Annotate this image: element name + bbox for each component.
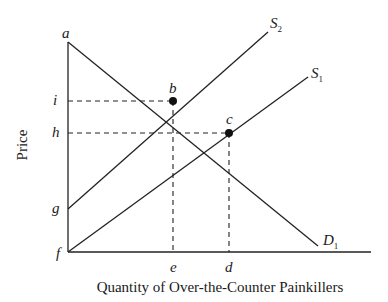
label-s1: S1: [311, 65, 323, 84]
label-d1: D1: [322, 232, 338, 251]
label-a: a: [62, 25, 70, 41]
y-axis-title: Price: [14, 129, 30, 160]
label-i: i: [53, 92, 57, 108]
equilibrium-point-c: [225, 129, 233, 137]
demand-curve-d1: [68, 42, 318, 246]
x-axis-title: Quantity of Over-the-Counter Painkillers: [97, 279, 344, 295]
label-e: e: [170, 259, 177, 275]
label-b: b: [169, 80, 177, 96]
label-f: f: [56, 245, 62, 261]
label-g: g: [52, 200, 60, 216]
label-c: c: [226, 111, 233, 127]
label-s2: S2: [270, 15, 282, 34]
equilibrium-point-b: [169, 97, 177, 105]
supply-demand-diagram: S2 S1 D1 a b c i h g f e d Quantity of O…: [0, 0, 388, 302]
label-d: d: [225, 259, 233, 275]
supply-curve-s2: [68, 32, 268, 209]
label-h: h: [52, 124, 60, 140]
